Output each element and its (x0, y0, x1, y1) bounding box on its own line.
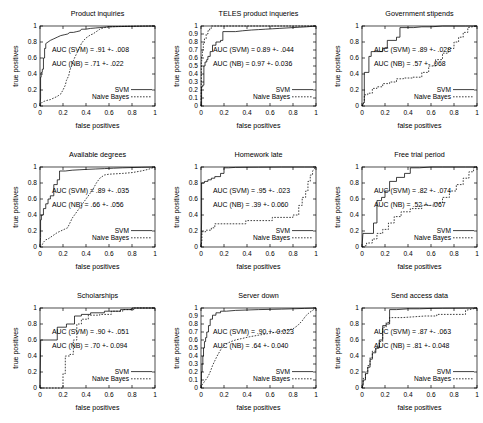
x-axis-label: false positives (237, 263, 281, 271)
y-tick-label: 0.8 (28, 320, 37, 327)
x-tick-label: 0.4 (242, 109, 251, 116)
y-tick-label: 0.3 (189, 78, 198, 85)
panel-title: Homework late (235, 150, 283, 159)
panel-title: Scholarships (77, 291, 119, 300)
panel-title: Product inquiries (71, 9, 125, 18)
auc-svm-annotation: AUC (SVM) = .95 +- .023 (213, 187, 290, 195)
y-axis-label: true positives (334, 186, 342, 228)
panel-title: Government stipends (385, 9, 454, 18)
x-tick-label: 1 (314, 391, 318, 398)
y-tick-label: 1 (194, 304, 198, 311)
y-tick-label: 0.4 (28, 352, 37, 359)
panel-title: Free trial period (394, 150, 444, 159)
y-tick-label: 0 (194, 243, 198, 250)
y-axis-label: true positives (334, 45, 342, 87)
x-axis-label: false positives (76, 122, 120, 130)
y-tick-label: 0.8 (350, 179, 359, 186)
x-tick-label: 1 (314, 250, 318, 257)
x-tick-label: 0.2 (58, 250, 67, 257)
y-axis-label: true positives (12, 327, 20, 369)
y-tick-label: 0.8 (28, 179, 37, 186)
y-tick-label: 0.2 (350, 227, 359, 234)
auc-svm-annotation: AUC (SVM) = .89 +- .035 (52, 187, 129, 195)
y-axis-label: true positives (12, 186, 20, 228)
y-tick-label: 0.8 (350, 38, 359, 45)
x-tick-label: 0.8 (288, 391, 297, 398)
y-tick-label: 0.5 (189, 62, 198, 69)
y-tick-label: 0 (355, 102, 359, 109)
y-tick-label: 0.4 (28, 70, 37, 77)
y-tick-label: 1 (33, 304, 37, 311)
legend-label-naive-bayes: Naive Bayes (253, 375, 291, 383)
y-tick-label: 1 (355, 163, 359, 170)
x-tick-label: 0.4 (403, 250, 412, 257)
x-tick-label: 1 (153, 109, 157, 116)
x-tick-label: 0.2 (58, 109, 67, 116)
y-tick-label: 0.2 (189, 227, 198, 234)
y-tick-label: 0.6 (189, 54, 198, 61)
y-tick-label: 0.7 (189, 328, 198, 335)
legend-label-naive-bayes: Naive Bayes (414, 93, 452, 101)
y-axis-label: true positives (173, 327, 181, 369)
y-tick-label: 0.6 (189, 195, 198, 202)
y-tick-label: 0.2 (350, 86, 359, 93)
y-tick-label: 0.4 (350, 352, 359, 359)
x-axis-label: false positives (76, 263, 120, 271)
x-tick-label: 0.2 (58, 391, 67, 398)
x-tick-label: 0 (38, 109, 42, 116)
x-tick-label: 0.8 (127, 391, 136, 398)
y-axis-label: true positives (173, 45, 181, 87)
auc-nb-annotation: AUC (NB) = .71 +- .022 (52, 60, 124, 68)
x-tick-label: 0.6 (104, 109, 113, 116)
y-tick-label: 0.1 (189, 376, 198, 383)
y-tick-label: 0.6 (350, 54, 359, 61)
y-tick-label: 0.2 (189, 86, 198, 93)
x-tick-label: 0.8 (449, 250, 458, 257)
x-tick-label: 0.4 (81, 250, 90, 257)
y-tick-label: 0.2 (350, 368, 359, 375)
y-tick-label: 0 (33, 384, 37, 391)
y-tick-label: 0 (33, 243, 37, 250)
y-tick-label: 0.7 (189, 46, 198, 53)
x-axis-label: false positives (237, 404, 281, 412)
x-tick-label: 1 (475, 391, 479, 398)
x-tick-label: 1 (475, 250, 479, 257)
roc-panel: Product inquiries00.20.40.60.8100.20.40.… (0, 0, 161, 141)
y-tick-label: 0.9 (189, 312, 198, 319)
roc-panel: Available degrees00.20.40.60.8100.20.40.… (0, 141, 161, 282)
auc-svm-annotation: AUC (SVM) = .87 +- .063 (374, 328, 451, 336)
x-axis-label: false positives (398, 263, 442, 271)
y-tick-label: 0 (33, 102, 37, 109)
y-axis-label: true positives (173, 186, 181, 228)
y-tick-label: 0.8 (189, 320, 198, 327)
y-tick-label: 0.2 (28, 368, 37, 375)
panel-title: TELES product inqueries (219, 9, 299, 18)
x-tick-label: 0.6 (265, 391, 274, 398)
y-tick-label: 0.4 (28, 211, 37, 218)
x-tick-label: 0.2 (219, 250, 228, 257)
x-tick-label: 0 (360, 109, 364, 116)
x-tick-label: 0 (199, 391, 203, 398)
y-tick-label: 1 (33, 163, 37, 170)
y-tick-label: 0.2 (28, 86, 37, 93)
legend-label-svm: SVM (115, 227, 129, 234)
x-axis-label: false positives (237, 122, 281, 130)
x-tick-label: 0.2 (380, 391, 389, 398)
x-tick-label: 0.2 (219, 391, 228, 398)
x-tick-label: 0.6 (104, 250, 113, 257)
y-tick-label: 0.6 (28, 54, 37, 61)
y-tick-label: 0 (194, 384, 198, 391)
x-tick-label: 0.8 (288, 109, 297, 116)
y-tick-label: 1 (194, 163, 198, 170)
legend-label-svm: SVM (276, 86, 290, 93)
y-tick-label: 0.2 (189, 368, 198, 375)
auc-nb-annotation: AUC (NB) = .66 +- .056 (52, 201, 124, 209)
y-tick-label: 0 (355, 243, 359, 250)
x-tick-label: 0.4 (81, 391, 90, 398)
x-axis-label: false positives (398, 404, 442, 412)
y-tick-label: 0.9 (189, 30, 198, 37)
y-tick-label: 0.8 (189, 38, 198, 45)
x-tick-label: 0 (38, 250, 42, 257)
y-tick-label: 0.1 (189, 94, 198, 101)
x-tick-label: 0.8 (127, 250, 136, 257)
